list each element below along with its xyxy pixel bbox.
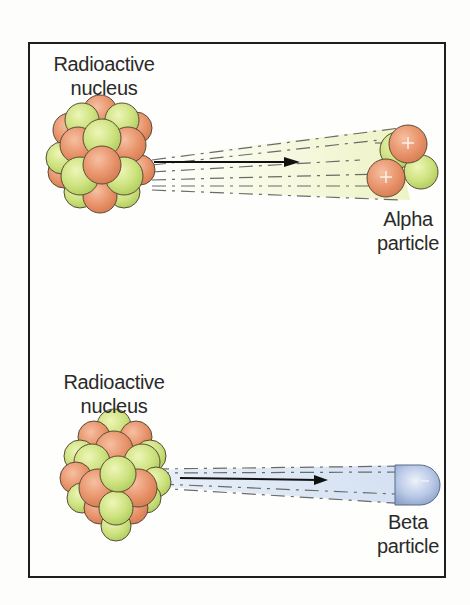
- label-line: Radioactive: [44, 370, 184, 394]
- nucleus-label-beta: Radioactive nucleus: [44, 370, 184, 418]
- label-line: nucleus: [44, 394, 184, 418]
- radioactive-nucleus-beta: [60, 409, 171, 541]
- beta-particle-label: Beta particle: [368, 510, 448, 558]
- label-line: nucleus: [34, 76, 174, 100]
- label-line: Alpha: [368, 207, 448, 231]
- alpha-particle-label: Alpha particle: [368, 207, 448, 255]
- label-line: Beta: [368, 510, 448, 534]
- beta-particle: [395, 465, 440, 505]
- label-line: particle: [368, 534, 448, 558]
- beta-trail: [152, 465, 420, 505]
- nucleus-label-alpha: Radioactive nucleus: [34, 52, 174, 100]
- label-line: particle: [368, 231, 448, 255]
- label-line: Radioactive: [34, 52, 174, 76]
- radioactive-nucleus-alpha: [46, 95, 155, 213]
